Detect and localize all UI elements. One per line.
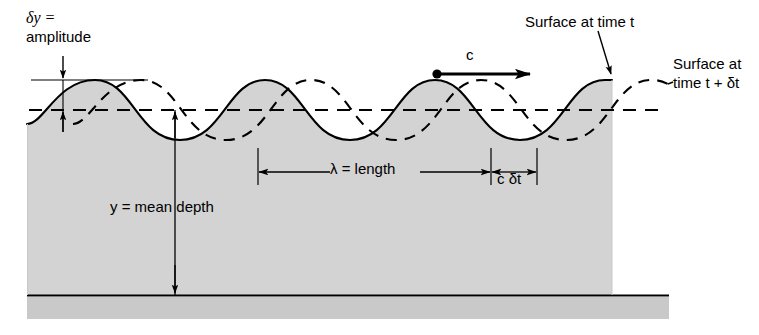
sea-bed-fill xyxy=(27,297,669,319)
mean-depth-label: y = mean depth xyxy=(110,198,214,217)
surface-at-time-t-plus-dt-label: Surface at time t + δt xyxy=(673,55,741,93)
wave-speed-origin-dot xyxy=(432,69,441,78)
surface-tdt-label-line1: Surface at xyxy=(673,55,741,72)
surface-wave-figure: δy = amplitude Surface at time t Surface… xyxy=(0,0,759,335)
wave-speed-label: c xyxy=(466,46,474,65)
surface-at-time-t-label: Surface at time t xyxy=(525,13,634,32)
distance-travelled-label: c δt xyxy=(497,170,521,189)
amplitude-label-line1: δy = xyxy=(26,9,55,26)
wavelength-label: λ = length xyxy=(330,160,395,179)
amplitude-label-line2: amplitude xyxy=(26,28,91,47)
surface-at-time-t-pointer xyxy=(598,31,611,74)
amplitude-label: δy = amplitude xyxy=(26,8,91,47)
surface-tdt-label-line2: time t + δt xyxy=(673,74,741,93)
